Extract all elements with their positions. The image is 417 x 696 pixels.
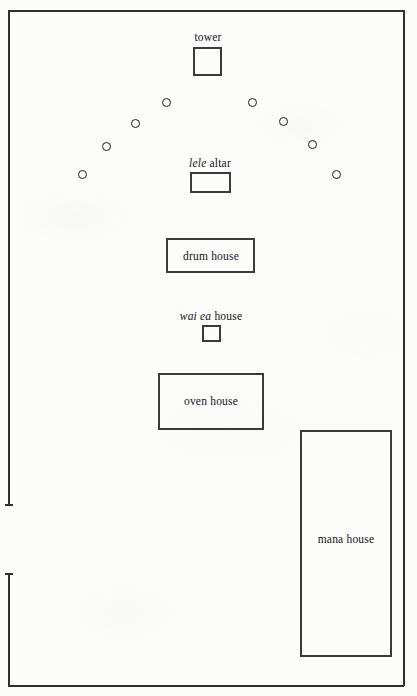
image-post-circle [279, 117, 288, 126]
label-wai-ea-house-italic: wai ea [180, 310, 212, 322]
west-wall-upper-segment [8, 10, 10, 506]
structure-wai-ea-house [202, 325, 221, 342]
label-lele-altar: lele altar [189, 157, 231, 170]
label-oven-house: oven house [184, 395, 238, 408]
image-post-circle [308, 140, 317, 149]
heiau-plan-figure: tower lele altar drum house wai ea house… [0, 0, 417, 696]
label-lele-altar-rest: altar [206, 157, 231, 169]
image-post-circle [162, 98, 171, 107]
image-post-circle [332, 170, 341, 179]
west-wall-lower-segment [8, 573, 10, 686]
structure-tower [193, 47, 222, 76]
label-mana-house: mana house [318, 533, 375, 546]
image-post-circle [131, 119, 140, 128]
image-post-circle [102, 142, 111, 151]
west-wall-entrance-cap-upper [5, 504, 13, 506]
image-post-circle [78, 170, 87, 179]
label-wai-ea-house-rest: house [211, 310, 242, 322]
label-drum-house: drum house [183, 250, 239, 263]
structure-lele-altar [190, 172, 231, 193]
label-wai-ea-house: wai ea house [180, 310, 242, 323]
west-wall-entrance-cap-lower [5, 573, 13, 575]
label-tower: tower [194, 31, 221, 44]
label-lele-altar-italic: lele [189, 157, 206, 169]
image-post-circle [248, 98, 257, 107]
east-wall [403, 10, 405, 686]
north-wall [8, 10, 404, 12]
south-wall [8, 685, 404, 687]
